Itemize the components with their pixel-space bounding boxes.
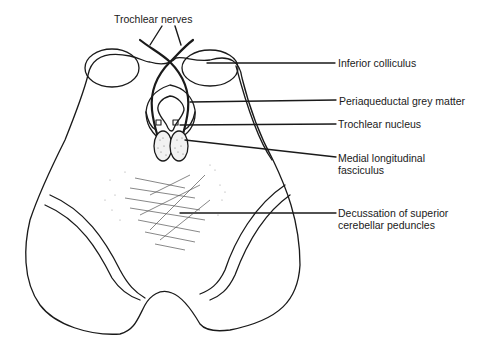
leader-mlf — [185, 140, 336, 157]
right-nerve-root — [175, 26, 181, 45]
label-trochlear-nucleus: Trochlear nucleus — [338, 118, 421, 130]
right-colliculus-shape — [182, 50, 238, 86]
label-mlf-line1: Medial longitudinal — [338, 152, 425, 164]
left-peduncle-band-inner — [45, 205, 140, 300]
label-periaqueductal-grey: Periaqueductal grey matter — [339, 95, 465, 107]
label-trochlear-nerves: Trochlear nerves — [114, 13, 192, 25]
label-mlf-line2: fasciculus — [338, 164, 384, 176]
left-mlf — [154, 131, 172, 161]
right-mlf — [170, 131, 188, 161]
left-trochlear-nucleus — [156, 120, 161, 125]
midbrain-outline — [26, 54, 300, 334]
aqueduct-shape — [158, 96, 184, 131]
label-decussation-line2: cerebellar peduncles — [338, 219, 435, 231]
label-inferior-colliculus: Inferior colliculus — [338, 57, 416, 69]
right-peduncle-band-inner — [210, 195, 290, 300]
midbrain-diagram: Trochlear nerves Inferior colliculus Per… — [0, 0, 487, 354]
label-decussation-line1: Decussation of superior — [338, 207, 448, 219]
decussation-stipple — [104, 164, 225, 220]
midbrain-section-drawing — [0, 0, 487, 354]
leader-periaqueductal-grey — [190, 100, 336, 102]
left-peduncle-band-outer — [50, 195, 145, 298]
right-peduncle-band-outer — [200, 185, 285, 294]
left-nerve-root — [150, 26, 162, 45]
leader-trochlear-nucleus — [180, 124, 336, 125]
